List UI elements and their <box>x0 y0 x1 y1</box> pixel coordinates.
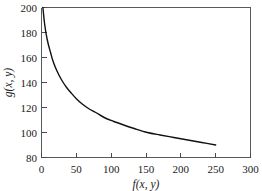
x-tick-marks <box>42 153 251 158</box>
y-tick-label: 140 <box>21 77 38 89</box>
x-axis-title: f(x, y) <box>133 178 160 191</box>
data-curve-series-0 <box>43 8 216 146</box>
y-tick-labels: 200 180 160 140 120 100 80 <box>21 2 38 164</box>
plot-frame <box>42 8 251 158</box>
y-axis-title: g(x, y) <box>2 68 15 98</box>
x-tick-label: 300 <box>242 163 259 175</box>
chart-page: 200 180 160 140 120 100 80 0 50 100 150 … <box>0 0 262 191</box>
x-tick-label: 50 <box>71 163 83 175</box>
y-tick-label: 100 <box>21 127 38 139</box>
y-tick-label: 160 <box>21 52 38 64</box>
x-tick-label: 200 <box>173 163 190 175</box>
y-tick-label: 180 <box>21 27 38 39</box>
x-tick-labels: 0 50 100 150 200 250 300 <box>39 163 260 175</box>
y-tick-label: 80 <box>26 152 38 164</box>
x-tick-label: 150 <box>138 163 155 175</box>
x-tick-label: 0 <box>39 163 45 175</box>
y-tick-label: 200 <box>21 2 38 14</box>
y-tick-label: 120 <box>21 102 38 114</box>
line-chart: 200 180 160 140 120 100 80 0 50 100 150 … <box>0 0 262 191</box>
x-tick-label: 250 <box>207 163 224 175</box>
x-tick-label: 100 <box>103 163 120 175</box>
